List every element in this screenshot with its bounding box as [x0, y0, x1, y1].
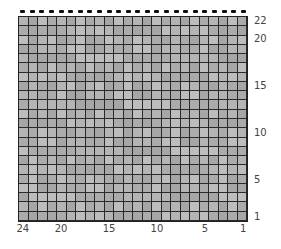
stitch-cell	[95, 63, 105, 72]
stitch-cell	[238, 54, 248, 63]
stitch-cell	[57, 138, 67, 147]
bind-off-dash-icon	[47, 9, 57, 14]
stitch-cell	[238, 128, 248, 137]
stitch-cell	[152, 165, 162, 174]
stitch-cell	[95, 138, 105, 147]
stitch-cell	[29, 175, 39, 184]
row-label: 22	[254, 16, 267, 26]
stitch-cell	[76, 54, 86, 63]
stitch-cell	[19, 100, 29, 109]
stitch-cell	[190, 156, 200, 165]
stitch-cell	[105, 100, 115, 109]
stitch-cell	[29, 128, 39, 137]
stitch-cell	[86, 128, 96, 137]
column-label: 24	[16, 224, 29, 234]
stitch-cell	[209, 17, 219, 26]
stitch-cell	[114, 73, 124, 82]
stitch-cell	[19, 184, 29, 193]
stitch-cell	[133, 165, 143, 174]
stitch-cell	[86, 82, 96, 91]
stitch-cell	[238, 202, 248, 211]
stitch-cell	[95, 100, 105, 109]
stitch-cell	[95, 128, 105, 137]
stitch-cell	[190, 73, 200, 82]
stitch-cell	[105, 184, 115, 193]
stitch-cell	[152, 110, 162, 119]
stitch-cell	[76, 147, 86, 156]
stitch-cell	[190, 63, 200, 72]
stitch-cell	[95, 147, 105, 156]
stitch-cell	[181, 119, 191, 128]
stitch-cell	[76, 138, 86, 147]
stitch-cell	[95, 110, 105, 119]
stitch-cell	[133, 73, 143, 82]
bind-off-dash-icon	[143, 9, 153, 14]
stitch-cell	[171, 156, 181, 165]
stitch-cell	[143, 110, 153, 119]
stitch-cell	[190, 119, 200, 128]
stitch-cell	[38, 54, 48, 63]
stitch-cell	[162, 184, 172, 193]
stitch-cell	[86, 54, 96, 63]
stitch-cell	[209, 82, 219, 91]
stitch-cell	[190, 184, 200, 193]
stitch-cell	[181, 17, 191, 26]
column-label: 5	[202, 224, 208, 234]
stitch-cell	[228, 128, 238, 137]
stitch-cell	[171, 212, 181, 221]
stitch-cell	[38, 165, 48, 174]
stitch-cell	[95, 73, 105, 82]
stitch-cell	[162, 147, 172, 156]
stitch-cell	[38, 63, 48, 72]
stitch-cell	[171, 73, 181, 82]
stitch-cell	[19, 54, 29, 63]
stitch-cell	[95, 175, 105, 184]
stitch-cell	[95, 45, 105, 54]
stitch-cell	[143, 119, 153, 128]
stitch-cell	[228, 17, 238, 26]
stitch-cell	[124, 156, 134, 165]
stitch-cell	[19, 36, 29, 45]
stitch-cell	[190, 54, 200, 63]
stitch-cell	[67, 26, 77, 35]
stitch-cell	[162, 175, 172, 184]
stitch-cell	[238, 147, 248, 156]
stitch-cell	[143, 26, 153, 35]
stitch-cell	[171, 110, 181, 119]
stitch-cell	[86, 119, 96, 128]
bind-off-dash-icon	[181, 9, 191, 14]
bind-off-dash-icon	[162, 9, 172, 14]
stitch-cell	[76, 212, 86, 221]
stitch-cell	[228, 175, 238, 184]
stitch-cell	[171, 82, 181, 91]
stitch-cell	[105, 45, 115, 54]
stitch-cell	[76, 36, 86, 45]
stitch-cell	[228, 82, 238, 91]
stitch-cell	[228, 73, 238, 82]
stitch-cell	[105, 36, 115, 45]
stitch-cell	[124, 17, 134, 26]
stitch-cell	[228, 63, 238, 72]
stitch-cell	[124, 147, 134, 156]
stitch-cell	[171, 147, 181, 156]
stitch-cell	[152, 91, 162, 100]
stitch-cell	[181, 147, 191, 156]
stitch-cell	[238, 73, 248, 82]
stitch-cell	[124, 138, 134, 147]
stitch-cell	[238, 156, 248, 165]
stitch-cell	[190, 17, 200, 26]
stitch-cell	[67, 156, 77, 165]
stitch-cell	[200, 73, 210, 82]
bind-off-dash-icon	[28, 9, 38, 14]
stitch-cell	[238, 138, 248, 147]
stitch-cell	[181, 45, 191, 54]
stitch-cell	[57, 100, 67, 109]
stitch-cell	[86, 110, 96, 119]
stitch-cell	[48, 26, 58, 35]
stitch-cell	[48, 202, 58, 211]
stitch-cell	[181, 54, 191, 63]
stitch-cell	[67, 119, 77, 128]
stitch-cell	[86, 17, 96, 26]
stitch-cell	[152, 45, 162, 54]
stitch-cell	[171, 138, 181, 147]
